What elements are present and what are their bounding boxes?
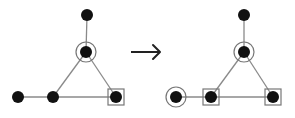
diagram-canvas [0, 0, 295, 118]
graph-before [12, 9, 124, 105]
graph-transformation-diagram [0, 0, 295, 118]
edge-b-d [211, 52, 244, 97]
node-c [170, 91, 182, 103]
graph-after [166, 9, 281, 107]
node-d [47, 91, 59, 103]
node-d [205, 91, 217, 103]
edge-b-e [86, 52, 116, 97]
node-a [238, 9, 250, 21]
edge-b-e [244, 52, 273, 97]
node-b [238, 46, 250, 58]
node-b [80, 46, 92, 58]
node-a [81, 9, 93, 21]
node-c [12, 91, 24, 103]
node-e [267, 91, 279, 103]
node-e [110, 91, 122, 103]
edge-b-d [53, 52, 86, 97]
right-arrow-icon [131, 45, 160, 59]
